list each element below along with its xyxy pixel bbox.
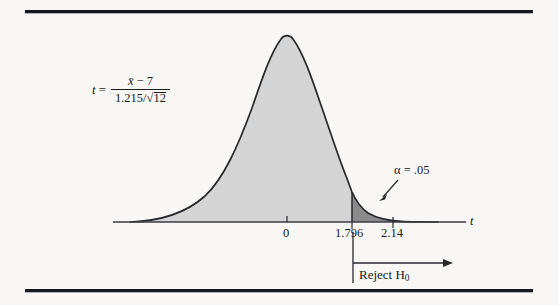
- reject-annotation-subscript: 0: [405, 273, 410, 283]
- alpha-callout-arrow-head: [379, 194, 387, 201]
- acceptance-region-area: [130, 36, 352, 222]
- rejection-region-area: [352, 192, 438, 222]
- formula-numerator-variable: x̄: [128, 74, 134, 88]
- alpha-annotation-label: α = .05: [394, 163, 429, 178]
- tick-label-critical-value: 1.796: [335, 226, 363, 241]
- reject-bracket-arrow-head: [443, 259, 453, 267]
- formula-denominator-coefficient: 1.215/: [115, 91, 147, 105]
- formula-fraction: x̄ − 7 1.215/√12: [111, 74, 170, 106]
- formula-numerator: x̄ − 7: [124, 74, 157, 89]
- x-axis-label: t: [470, 214, 473, 229]
- distribution-plot: [0, 0, 558, 305]
- formula-equals-sign: =: [99, 82, 106, 98]
- radical-overbar: [154, 92, 166, 93]
- formula-radicand: 12: [153, 91, 166, 105]
- tick-label-zero: 0: [283, 226, 289, 241]
- reject-annotation-label: Reject H0: [359, 267, 410, 283]
- t-distribution-figure: 0 1.796 2.14 t α = .05 Reject H0 t = x̄ …: [0, 0, 558, 305]
- formula-numerator-rest: − 7: [137, 74, 153, 88]
- square-root-icon: √12: [147, 91, 166, 105]
- test-statistic-formula: t = x̄ − 7 1.215/√12: [92, 74, 170, 106]
- reject-annotation-text: Reject H: [359, 267, 405, 282]
- formula-denominator: 1.215/√12: [111, 90, 170, 105]
- tick-label-test-statistic: 2.14: [381, 226, 403, 241]
- alpha-callout-arrow-shaft: [383, 180, 398, 197]
- formula-left-hand-side: t: [92, 82, 96, 98]
